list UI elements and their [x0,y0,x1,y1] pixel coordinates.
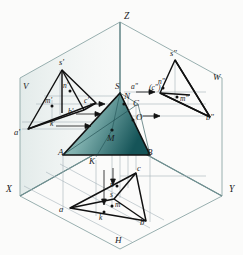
plane-label-v: V [23,82,29,91]
top-label-c: c [137,164,141,173]
projection-diagram [0,0,243,255]
side-label-s: s" [170,49,177,58]
front-label-s: s' [59,58,64,67]
top-view-edge-a-s [70,199,114,208]
vertex-label-A: A [58,148,64,157]
axis-label-z: Z [124,12,129,22]
point-m-w [176,96,179,99]
top-label-m: m [115,201,120,209]
plane-label-h: H [115,236,122,245]
front-label-b: b' [68,108,73,116]
axis-label-y: Y [229,185,234,195]
vertex-label-S: S [115,82,120,91]
point-label-N: N [124,92,130,101]
side-label-a: a" [131,83,138,91]
point-N [122,102,125,105]
top-label-a: a [59,205,63,214]
point-label-M: M [107,134,115,143]
point-label-K: K [89,157,95,166]
axis-label-x: X [6,185,12,195]
plane-label-w: W [213,73,221,82]
side-label-c: (c") [149,84,160,92]
front-label-m: m' [45,97,52,105]
arrow-center-to-w-2 [143,114,160,119]
arrow-center-to-h-2 [102,170,107,205]
top-label-b: b [140,218,144,227]
point-m-h [111,205,114,208]
front-label-c: c' [84,97,89,105]
vertex-label-B: B [147,148,153,157]
top-label-s: s [110,191,113,199]
top-label-n: n [110,181,114,189]
front-label-k: k' [50,120,55,128]
point-n-v [69,90,72,93]
point-n-w [162,87,165,90]
point-O-dot [132,119,135,122]
front-label-n: n' [63,82,68,90]
side-label-m: m" [180,95,189,103]
side-view-W [160,60,210,117]
side-view-outline [160,60,210,117]
figure-canvas: Z X Y O V W H S A B C M N K s' n' m' c' … [0,0,243,255]
axis-label-origin: O [136,113,143,122]
front-label-a: a' [14,128,20,137]
top-label-k: k [99,214,102,222]
vertex-label-C: C [133,99,139,108]
side-label-b: b" [206,113,214,122]
point-k-h [103,211,106,214]
top-view-H [70,173,146,221]
side-view-points [162,87,179,99]
point-n-h [116,185,119,188]
